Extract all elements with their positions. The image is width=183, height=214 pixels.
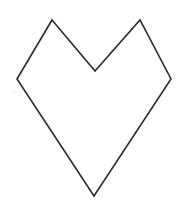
heart-outline-polygon	[17, 20, 171, 196]
scan-speck-artifact	[13, 91, 15, 93]
figure-canvas	[0, 0, 183, 214]
heart-shape-svg	[0, 0, 183, 214]
